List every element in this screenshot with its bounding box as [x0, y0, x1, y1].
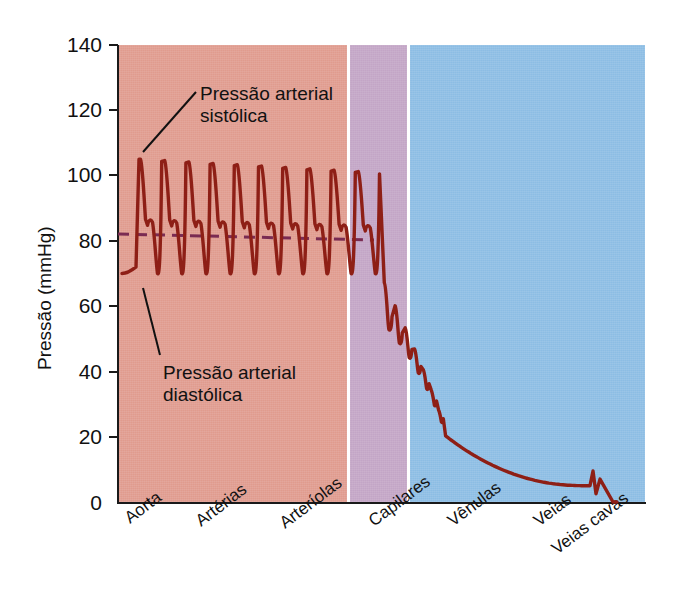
annotation-diastolic-line1: Pressão arterial: [163, 362, 296, 384]
annotation-systolic: Pressão arterial sistólica: [200, 83, 333, 128]
annotation-diastolic-line2: diastólica: [163, 384, 296, 406]
y-tick-60: [109, 305, 118, 307]
y-tick-label-0: 0: [46, 491, 102, 515]
y-tick-100: [109, 174, 118, 176]
y-tick-label-100: 100: [46, 163, 102, 187]
y-axis-title: Pressão (mmHg): [34, 226, 56, 370]
venous-band: [410, 45, 645, 502]
annotation-systolic-line1: Pressão arterial: [200, 83, 333, 105]
y-tick-120: [109, 109, 118, 111]
y-tick-label-20: 20: [46, 425, 102, 449]
band-texture: [410, 45, 645, 502]
y-tick-20: [109, 436, 118, 438]
y-tick-label-120: 120: [46, 98, 102, 122]
y-tick-40: [109, 371, 118, 373]
annotation-systolic-line2: sistólica: [200, 105, 333, 127]
y-tick-80: [109, 240, 118, 242]
y-tick-140: [109, 44, 118, 46]
band-texture: [350, 45, 407, 502]
annotation-diastolic: Pressão arterial diastólica: [163, 362, 296, 407]
y-tick-label-140: 140: [46, 33, 102, 57]
capillary-band: [350, 45, 407, 502]
blood-pressure-chart: 140 120 100 80 60 40 20 0 Pressão (mmHg)…: [0, 0, 675, 615]
plot-area: [118, 45, 645, 502]
